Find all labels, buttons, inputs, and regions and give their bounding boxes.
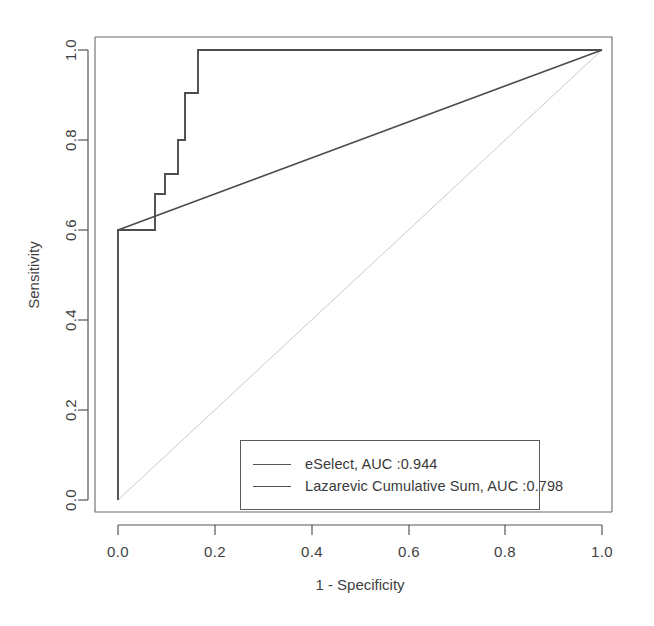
- x-tick-label-0.2: 0.2: [204, 543, 226, 560]
- legend-label-lazarevic-cumulative-sum: Lazarevic Cumulative Sum, AUC :0.798: [305, 478, 563, 494]
- chart-legend: eSelect, AUC :0.944 Lazarevic Cumulative…: [240, 440, 540, 510]
- legend-line-swatch-icon: [253, 464, 291, 465]
- x-tick-label-0.4: 0.4: [301, 543, 323, 560]
- x-axis-title: 1 - Specificity: [315, 576, 404, 593]
- roc-curve-figure: 1.0 0.8 0.6 0.4 0.2 0.0 0.0 0.2 0.4 0.6 …: [0, 0, 654, 626]
- y-axis-title: Sensitivity: [25, 241, 42, 309]
- plot-canvas: [0, 0, 654, 626]
- y-axis: [78, 50, 88, 500]
- x-axis: [118, 525, 602, 535]
- y-tick-label-0.2: 0.2: [62, 399, 79, 421]
- x-tick-label-0.0: 0.0: [107, 543, 129, 560]
- legend-line-swatch-icon: [253, 486, 291, 487]
- y-tick-label-0.0: 0.0: [62, 489, 79, 511]
- legend-item-lazarevic-cumulative-sum: Lazarevic Cumulative Sum, AUC :0.798: [253, 475, 529, 497]
- x-tick-label-1.0: 1.0: [591, 543, 613, 560]
- x-tick-label-0.8: 0.8: [494, 543, 516, 560]
- x-tick-label-0.6: 0.6: [398, 543, 420, 560]
- y-tick-label-0.8: 0.8: [62, 129, 79, 151]
- y-tick-label-1.0: 1.0: [62, 39, 79, 61]
- diagonal-reference-line: [118, 50, 602, 500]
- legend-item-eselect: eSelect, AUC :0.944: [253, 453, 529, 475]
- roc-curve-lazarevic-cumulative-sum: [118, 50, 602, 230]
- y-tick-label-0.4: 0.4: [62, 309, 79, 331]
- legend-label-eselect: eSelect, AUC :0.944: [305, 456, 437, 472]
- y-tick-label-0.6: 0.6: [62, 219, 79, 241]
